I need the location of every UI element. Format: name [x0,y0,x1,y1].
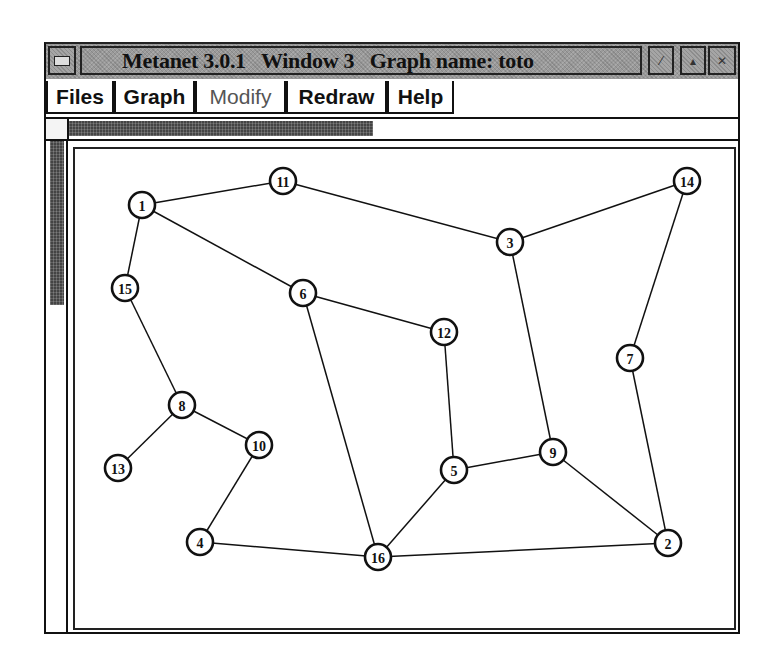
node-label: 15 [118,282,132,297]
node-label: 12 [437,326,451,341]
graph-node-5[interactable]: 5 [441,457,467,483]
node-label: 13 [111,462,125,477]
close-icon: ✕ [717,54,727,68]
scroll-corner [46,119,69,139]
node-label: 3 [507,236,514,251]
graph-edge-3-14[interactable] [510,181,687,242]
menu-help[interactable]: Help [387,81,454,114]
graph-edge-5-9[interactable] [454,452,553,470]
graph-canvas[interactable]: 12345678910111213141516 [73,147,736,630]
graph-node-10[interactable]: 10 [246,432,272,458]
graph-edge-6-16[interactable] [303,293,378,557]
graph-node-4[interactable]: 4 [187,529,213,555]
graph-node-3[interactable]: 3 [497,229,523,255]
vertical-scrollbar[interactable] [48,141,68,632]
graph-node-14[interactable]: 14 [674,168,700,194]
metanet-window: Metanet 3.0.1 Window 3 Graph name: toto … [44,42,740,634]
graph-edge-3-9[interactable] [510,242,553,452]
graph-node-7[interactable]: 7 [617,345,643,371]
graph-nodes: 12345678910111213141516 [105,168,700,570]
menu-files[interactable]: Files [46,81,114,114]
graph-node-13[interactable]: 13 [105,455,131,481]
graph-node-11[interactable]: 11 [270,168,296,194]
system-menu-icon [54,56,70,66]
node-label: 14 [680,175,694,190]
graph-edge-16-5[interactable] [378,470,454,557]
graph-node-8[interactable]: 8 [169,392,195,418]
node-label: 10 [252,439,266,454]
graph-node-9[interactable]: 9 [540,439,566,465]
graph-edge-4-16[interactable] [200,542,378,557]
maximize-button[interactable]: ▴ [680,46,706,75]
graph-edge-14-7[interactable] [630,181,687,358]
graph-edge-1-11[interactable] [142,181,283,205]
system-menu-button[interactable] [48,46,76,75]
graph-edge-7-2[interactable] [630,358,668,543]
graph-edge-9-2[interactable] [553,452,668,543]
graph-node-2[interactable]: 2 [655,530,681,556]
vertical-scroll-thumb[interactable] [50,141,64,305]
graph-edges [118,181,687,557]
graph-edge-12-5[interactable] [444,332,454,470]
menu-bar: Files Graph Modify Redraw Help [46,79,738,119]
node-label: 2 [665,537,672,552]
node-label: 8 [179,399,186,414]
title-bar[interactable]: Metanet 3.0.1 Window 3 Graph name: toto … [46,44,738,81]
node-label: 16 [371,551,385,566]
minimize-button[interactable]: ⁄ [648,46,674,75]
node-label: 11 [276,175,289,190]
graph-node-15[interactable]: 15 [112,275,138,301]
graph-edge-6-12[interactable] [303,293,444,332]
graph-edge-15-8[interactable] [125,288,182,405]
graph-edge-1-6[interactable] [142,205,303,293]
node-label: 7 [627,352,634,367]
window-title: Metanet 3.0.1 Window 3 Graph name: toto [80,46,642,75]
graph-drawing[interactable]: 12345678910111213141516 [75,149,738,632]
node-label: 4 [197,536,204,551]
graph-edge-16-2[interactable] [378,543,668,557]
maximize-icon: ▴ [690,54,696,68]
menu-graph[interactable]: Graph [114,81,195,114]
horizontal-scrollbar[interactable] [46,119,738,141]
node-label: 5 [451,464,458,479]
node-label: 6 [300,287,307,302]
node-label: 1 [139,199,146,214]
minimize-icon: ⁄ [660,54,662,68]
graph-node-12[interactable]: 12 [431,319,457,345]
node-label: 9 [550,446,557,461]
graph-node-1[interactable]: 1 [129,192,155,218]
menu-modify[interactable]: Modify [195,81,286,114]
graph-edge-11-3[interactable] [283,181,510,242]
graph-node-16[interactable]: 16 [365,544,391,570]
menu-redraw[interactable]: Redraw [286,81,387,114]
close-button[interactable]: ✕ [708,46,736,75]
graph-edge-10-4[interactable] [200,445,259,542]
horizontal-scroll-thumb[interactable] [69,121,373,136]
graph-node-6[interactable]: 6 [290,280,316,306]
